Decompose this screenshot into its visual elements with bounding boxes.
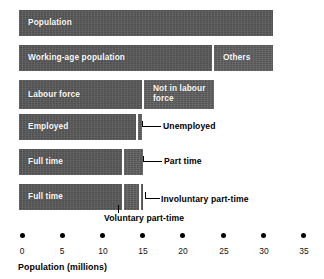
bar-row-full-time-voluntary-involuntary: Full time [19, 184, 143, 210]
bar-segment-working-age-population: Working-age population [19, 45, 212, 71]
axis-tick-label: 0 [20, 246, 25, 256]
bar-segment-unemployed [136, 114, 142, 140]
axis-tick-dot [140, 233, 145, 238]
bar-segment-not-in-labour-force: Not in labour force [142, 80, 214, 109]
axis-tick-dot [100, 233, 105, 238]
x-axis-title: Population (millions) [18, 262, 107, 272]
bar-segment-labour-force: Labour force [19, 80, 142, 109]
bar-segment-employed: Employed [19, 114, 136, 140]
axis-tick-dot [20, 233, 25, 238]
bar-row-labour-force: Labour force Not in labour force [19, 80, 214, 109]
axis-tick-dot [301, 233, 306, 238]
callout-involuntary-part-time: Involuntary part-time [161, 194, 249, 204]
axis-tick-label: 25 [219, 246, 228, 256]
bar-segment-label: Labour force [28, 90, 80, 100]
axis-tick-label: 20 [178, 246, 187, 256]
callout-leader-voluntary-part-time [118, 205, 119, 213]
axis-tick-label: 15 [138, 246, 147, 256]
callout-leader-part-time-stub [143, 156, 144, 162]
axis-tick-dot [221, 233, 226, 238]
axis-tick-label: 35 [299, 246, 308, 256]
callout-part-time: Part time [164, 156, 202, 166]
bar-segment-full-time: Full time [19, 184, 122, 210]
callout-leader-involuntary-part-time [146, 198, 160, 199]
callout-unemployed: Unemployed [163, 121, 216, 131]
bar-row-full-time-part-time: Full time [19, 149, 143, 175]
axis-tick-dot [180, 233, 185, 238]
callout-leader-involuntary-part-time-stub [145, 192, 146, 199]
bar-row-population: Population [19, 10, 273, 36]
bar-segment-involuntary-part-time [139, 184, 143, 210]
bar-segment-voluntary-part-time [122, 184, 139, 210]
bar-row-employed: Employed [19, 114, 142, 140]
bar-segment-others: Others [212, 45, 273, 71]
bar-segment-population: Population [19, 10, 273, 36]
bar-segment-label: Population [28, 18, 72, 28]
bar-segment-label: Full time [28, 192, 63, 202]
bar-segment-label: Others [223, 53, 250, 63]
callout-leader-part-time [144, 161, 162, 162]
bar-row-working-age-population: Working-age population Others [19, 45, 273, 71]
callout-voluntary-part-time: Voluntary part-time [104, 213, 184, 223]
callout-leader-unemployed-stub [142, 121, 143, 127]
axis-tick-label: 30 [259, 246, 268, 256]
bar-segment-label: Working-age population [28, 53, 125, 63]
axis-tick-dot [261, 233, 266, 238]
bar-segment-label: Not in labour force [153, 84, 205, 103]
axis-tick-label: 5 [60, 246, 65, 256]
bar-segment-part-time [122, 149, 143, 175]
axis-tick-label: 10 [98, 246, 107, 256]
bar-segment-label: Full time [28, 157, 63, 167]
population-breakdown-chart: Population Working-age population Others… [0, 0, 324, 279]
callout-leader-unemployed [143, 126, 161, 127]
bar-segment-label: Employed [28, 122, 68, 132]
bar-segment-full-time: Full time [19, 149, 122, 175]
axis-tick-dot [60, 233, 65, 238]
